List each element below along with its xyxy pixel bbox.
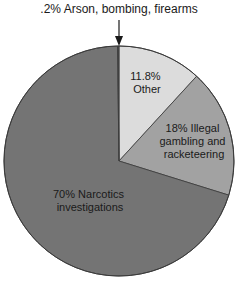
pie-chart: .2% Arson, bombing, firearms 11.8% Other… (0, 0, 242, 283)
label-gambling: 18% Illegal gambling and racketeering (159, 122, 228, 160)
label-narcotics: 70% Narcotics investigations (53, 188, 127, 213)
callout-label-arson: .2% Arson, bombing, firearms (40, 2, 197, 16)
pie-slices (4, 46, 234, 276)
callout-arrow-icon (115, 36, 123, 46)
label-other: 11.8% Other (130, 70, 163, 95)
